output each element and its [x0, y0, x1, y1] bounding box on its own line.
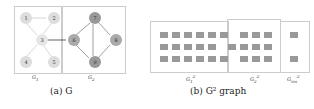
square-node	[160, 44, 168, 50]
graph-node: 7	[89, 12, 101, 24]
square-node	[208, 32, 216, 38]
square-node	[160, 32, 168, 38]
graph-node: 2	[48, 12, 60, 24]
graph-node: 9	[89, 56, 101, 68]
square-node	[160, 56, 168, 62]
square-node	[220, 56, 228, 62]
graph-node: 5	[48, 56, 60, 68]
graph-node: 3	[36, 34, 48, 46]
gms-box	[280, 21, 310, 73]
square-node	[172, 56, 180, 62]
square-node	[240, 32, 248, 38]
g2-label: G2	[88, 74, 95, 82]
square-node	[252, 44, 260, 50]
square-node	[172, 44, 180, 50]
square-node	[290, 56, 298, 62]
square-node	[240, 56, 248, 62]
square-node	[196, 32, 204, 38]
square-node	[184, 44, 192, 50]
square-node	[240, 44, 248, 50]
square-node	[264, 56, 272, 62]
square-node	[252, 56, 260, 62]
caption-a: (a) G	[50, 86, 72, 96]
graph-node: 1	[20, 12, 32, 24]
square-node	[208, 44, 216, 50]
gms-label: Gms2	[287, 74, 300, 84]
graph-node: 4	[20, 56, 32, 68]
square-node	[172, 32, 180, 38]
g1-label: G1	[32, 74, 39, 82]
square-node	[208, 56, 216, 62]
square-node	[252, 32, 260, 38]
graph-node: 6	[68, 34, 80, 46]
square-node	[184, 32, 192, 38]
square-node	[196, 56, 204, 62]
caption-b: (b) G² graph	[190, 86, 246, 96]
square-node	[264, 44, 272, 50]
graph-node: 8	[110, 34, 122, 46]
g1sq-label: G12	[186, 74, 195, 84]
square-node	[220, 32, 228, 38]
g2sq-label: G22	[250, 74, 259, 84]
square-node	[228, 44, 236, 50]
square-node	[196, 44, 204, 50]
square-node	[264, 32, 272, 38]
square-node	[184, 56, 192, 62]
square-node	[290, 32, 298, 38]
